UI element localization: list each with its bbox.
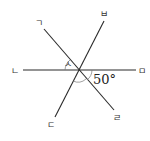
label-siot: ㅅ xyxy=(64,59,72,69)
label-rieul: ㄹ xyxy=(113,113,121,123)
label-giyeok: ㄱ xyxy=(35,18,43,28)
geometry-diagram: ㄱ ㄴ ㄷ ㄹ ㅁ ㅂ ㅅ 50° xyxy=(0,0,150,141)
label-nieun: ㄴ xyxy=(11,66,19,76)
line-bieup-digeut xyxy=(55,21,104,117)
angle-arc-bottom xyxy=(73,79,86,82)
label-digeut: ㄷ xyxy=(47,120,55,130)
angle-value-label: 50° xyxy=(93,72,116,87)
label-bieup: ㅂ xyxy=(100,9,108,19)
label-mieum: ㅁ xyxy=(138,66,146,76)
angle-arc-50 xyxy=(87,70,92,80)
